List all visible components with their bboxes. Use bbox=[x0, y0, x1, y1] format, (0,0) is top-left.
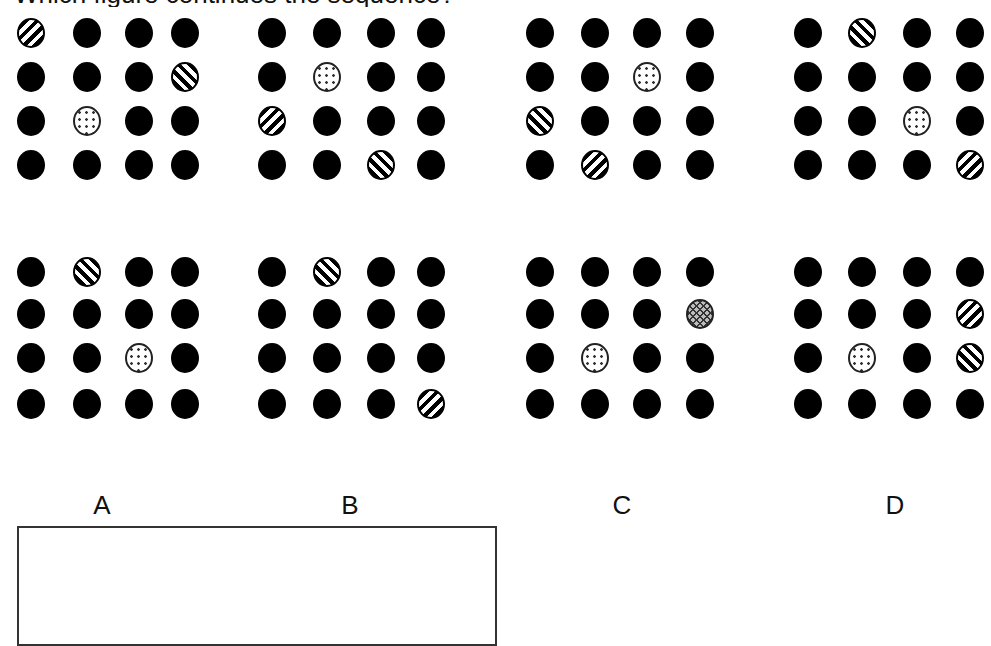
solid-circle-icon bbox=[125, 62, 153, 92]
solid-circle-icon bbox=[367, 62, 395, 92]
back-stripe-circle-icon bbox=[956, 343, 984, 373]
forward-stripe-circle-icon bbox=[956, 150, 984, 180]
solid-circle-icon bbox=[848, 257, 876, 287]
question-text: Which figure continues the sequence? bbox=[0, 0, 991, 7]
solid-circle-icon bbox=[686, 62, 714, 92]
solid-circle-icon bbox=[417, 299, 445, 329]
solid-circle-icon bbox=[417, 150, 445, 180]
back-stripe-circle-icon bbox=[171, 62, 199, 92]
solid-circle-icon bbox=[73, 389, 101, 419]
solid-circle-icon bbox=[848, 389, 876, 419]
solid-circle-icon bbox=[633, 389, 661, 419]
solid-circle-icon bbox=[125, 18, 153, 48]
solid-circle-icon bbox=[125, 299, 153, 329]
dotted-circle-icon bbox=[581, 343, 609, 373]
option-label-b[interactable]: B bbox=[341, 490, 358, 520]
solid-circle-icon bbox=[73, 343, 101, 373]
solid-circle-icon bbox=[258, 343, 286, 373]
solid-circle-icon bbox=[633, 299, 661, 329]
solid-circle-icon bbox=[417, 257, 445, 287]
solid-circle-icon bbox=[367, 389, 395, 419]
solid-circle-icon bbox=[526, 150, 554, 180]
solid-circle-icon bbox=[633, 150, 661, 180]
solid-circle-icon bbox=[581, 257, 609, 287]
forward-stripe-circle-icon bbox=[417, 389, 445, 419]
solid-circle-icon bbox=[794, 389, 822, 419]
solid-circle-icon bbox=[417, 18, 445, 48]
dotted-circle-icon bbox=[903, 106, 931, 136]
option-label-d[interactable]: D bbox=[886, 490, 905, 520]
solid-circle-icon bbox=[313, 299, 341, 329]
solid-circle-icon bbox=[313, 150, 341, 180]
solid-circle-icon bbox=[903, 343, 931, 373]
solid-circle-icon bbox=[903, 299, 931, 329]
solid-circle-icon bbox=[956, 62, 984, 92]
solid-circle-icon bbox=[125, 106, 153, 136]
solid-circle-icon bbox=[794, 257, 822, 287]
solid-circle-icon bbox=[17, 299, 45, 329]
solid-circle-icon bbox=[686, 389, 714, 419]
back-stripe-circle-icon bbox=[313, 257, 341, 287]
solid-circle-icon bbox=[258, 150, 286, 180]
solid-circle-icon bbox=[367, 18, 395, 48]
solid-circle-icon bbox=[258, 299, 286, 329]
solid-circle-icon bbox=[73, 299, 101, 329]
solid-circle-icon bbox=[956, 389, 984, 419]
solid-circle-icon bbox=[581, 299, 609, 329]
solid-circle-icon bbox=[526, 62, 554, 92]
solid-circle-icon bbox=[171, 299, 199, 329]
solid-circle-icon bbox=[125, 257, 153, 287]
solid-circle-icon bbox=[903, 18, 931, 48]
solid-circle-icon bbox=[313, 343, 341, 373]
option-label-c[interactable]: C bbox=[613, 490, 632, 520]
solid-circle-icon bbox=[258, 257, 286, 287]
forward-stripe-circle-icon bbox=[17, 18, 45, 48]
solid-circle-icon bbox=[794, 150, 822, 180]
solid-circle-icon bbox=[526, 389, 554, 419]
dotted-circle-icon bbox=[313, 62, 341, 92]
back-stripe-circle-icon bbox=[367, 150, 395, 180]
solid-circle-icon bbox=[903, 62, 931, 92]
solid-circle-icon bbox=[633, 18, 661, 48]
answer-box[interactable] bbox=[17, 526, 497, 646]
dotted-circle-icon bbox=[848, 343, 876, 373]
solid-circle-icon bbox=[581, 18, 609, 48]
solid-circle-icon bbox=[125, 389, 153, 419]
solid-circle-icon bbox=[258, 62, 286, 92]
solid-circle-icon bbox=[171, 257, 199, 287]
solid-circle-icon bbox=[417, 62, 445, 92]
dotted-circle-icon bbox=[125, 343, 153, 373]
solid-circle-icon bbox=[313, 389, 341, 419]
solid-circle-icon bbox=[848, 150, 876, 180]
solid-circle-icon bbox=[903, 150, 931, 180]
solid-circle-icon bbox=[526, 18, 554, 48]
solid-circle-icon bbox=[313, 18, 341, 48]
solid-circle-icon bbox=[367, 106, 395, 136]
solid-circle-icon bbox=[848, 299, 876, 329]
solid-circle-icon bbox=[633, 257, 661, 287]
solid-circle-icon bbox=[17, 343, 45, 373]
solid-circle-icon bbox=[633, 343, 661, 373]
solid-circle-icon bbox=[794, 106, 822, 136]
solid-circle-icon bbox=[686, 257, 714, 287]
solid-circle-icon bbox=[794, 343, 822, 373]
forward-stripe-circle-icon bbox=[258, 106, 286, 136]
solid-circle-icon bbox=[581, 389, 609, 419]
solid-circle-icon bbox=[903, 257, 931, 287]
option-label-a[interactable]: A bbox=[93, 490, 110, 520]
solid-circle-icon bbox=[848, 62, 876, 92]
solid-circle-icon bbox=[956, 106, 984, 136]
solid-circle-icon bbox=[73, 18, 101, 48]
dotted-circle-icon bbox=[633, 62, 661, 92]
solid-circle-icon bbox=[17, 257, 45, 287]
solid-circle-icon bbox=[17, 106, 45, 136]
solid-circle-icon bbox=[171, 343, 199, 373]
solid-circle-icon bbox=[794, 299, 822, 329]
solid-circle-icon bbox=[581, 62, 609, 92]
solid-circle-icon bbox=[794, 18, 822, 48]
solid-circle-icon bbox=[794, 62, 822, 92]
dotted-circle-icon bbox=[73, 106, 101, 136]
solid-circle-icon bbox=[17, 389, 45, 419]
solid-circle-icon bbox=[367, 257, 395, 287]
back-stripe-circle-icon bbox=[526, 106, 554, 136]
